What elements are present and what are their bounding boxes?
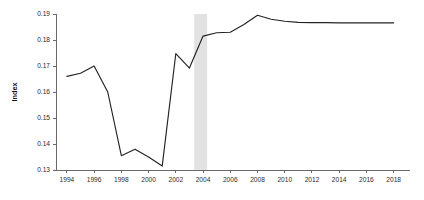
x-tick-label: 2006 xyxy=(223,176,238,183)
y-tick-label: 0.19 xyxy=(37,10,50,17)
x-tick-label: 2018 xyxy=(386,176,401,183)
y-tick-label: 0.14 xyxy=(37,140,50,147)
x-tick-label: 2002 xyxy=(168,176,183,183)
recession-band xyxy=(194,14,207,170)
x-tick-label: 1994 xyxy=(60,176,75,183)
x-tick-label: 2014 xyxy=(332,176,347,183)
x-tick-label: 2008 xyxy=(250,176,265,183)
y-tick-label: 0.15 xyxy=(37,114,50,121)
x-tick-label: 2012 xyxy=(305,176,320,183)
x-tick-label: 2010 xyxy=(277,176,292,183)
y-tick-label: 0.13 xyxy=(37,166,50,173)
y-tick-label: 0.16 xyxy=(37,88,50,95)
y-tick-label: 0.17 xyxy=(37,62,50,69)
x-tick-label: 2004 xyxy=(196,176,211,183)
series-line-index xyxy=(67,15,394,166)
chart-canvas: 0.130.140.150.160.170.180.19199419961998… xyxy=(0,0,424,200)
y-axis-title: Index xyxy=(10,83,19,102)
line-chart: 0.130.140.150.160.170.180.19199419961998… xyxy=(0,0,424,200)
y-tick-label: 0.18 xyxy=(37,36,50,43)
x-tick-label: 2016 xyxy=(359,176,374,183)
x-tick-label: 1998 xyxy=(114,176,129,183)
x-tick-label: 1996 xyxy=(87,176,102,183)
x-tick-label: 2000 xyxy=(141,176,156,183)
